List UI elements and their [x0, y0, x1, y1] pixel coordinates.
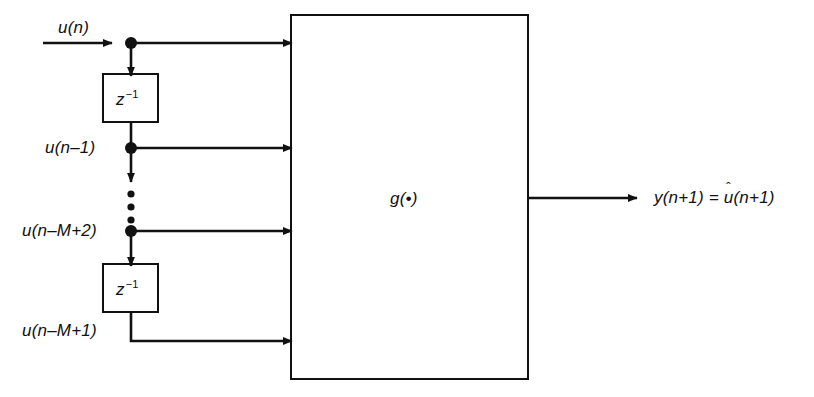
- tap-line-3: [131, 312, 292, 341]
- delay-label-1-exponent: −1: [126, 88, 139, 100]
- delay-label-1-z: z: [116, 90, 125, 109]
- output-label-y-part: y(n+1) =: [654, 188, 724, 207]
- u-hat-group: ˆu: [724, 189, 734, 206]
- tap-label-un-m-plus-1: u(n–M+1): [22, 322, 97, 339]
- tap-label-un-1: u(n–1): [45, 139, 95, 156]
- tap-label-un-m-plus-2: u(n–M+2): [22, 222, 97, 239]
- vertical-ellipsis-icon: [127, 190, 134, 223]
- tap-node-2: [125, 225, 137, 237]
- delay-label-2-exponent: −1: [126, 278, 139, 290]
- tap-node-1: [125, 142, 137, 154]
- block-label-g: g(•): [390, 190, 418, 207]
- delay-label-1: z−1: [116, 89, 138, 108]
- output-label: y(n+1) = ˆu(n+1): [654, 189, 775, 206]
- delay-label-2-z: z: [116, 280, 125, 299]
- delay-label-2: z−1: [116, 279, 138, 298]
- block-diagram-figure: u(n) u(n–1) u(n–M+2) u(n–M+1) z−1 z−1 g(…: [0, 0, 814, 397]
- input-label-un: u(n): [58, 19, 89, 36]
- u-hat-mark: ˆ: [726, 181, 731, 194]
- tap-node-0: [125, 37, 137, 49]
- output-label-args: (n+1): [734, 188, 775, 207]
